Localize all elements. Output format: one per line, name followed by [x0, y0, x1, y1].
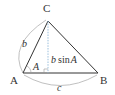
height-label-b: b [51, 54, 56, 65]
right-angle-marker [44, 69, 48, 73]
side-b-label: b [22, 38, 27, 49]
angle-a-arc [27, 66, 31, 73]
height-label: bsinA [51, 54, 78, 65]
edge-cb [48, 21, 98, 73]
side-c-label: c [57, 82, 62, 93]
angle-a-label: A [32, 61, 40, 72]
vertex-b-label: B [100, 74, 107, 86]
vertex-c-label: C [43, 2, 50, 14]
triangle-diagram: C A B b c A bsinA [0, 0, 115, 95]
height-label-a: A [70, 54, 78, 65]
vertex-a-label: A [10, 74, 18, 86]
height-label-sin: sin [58, 54, 70, 65]
